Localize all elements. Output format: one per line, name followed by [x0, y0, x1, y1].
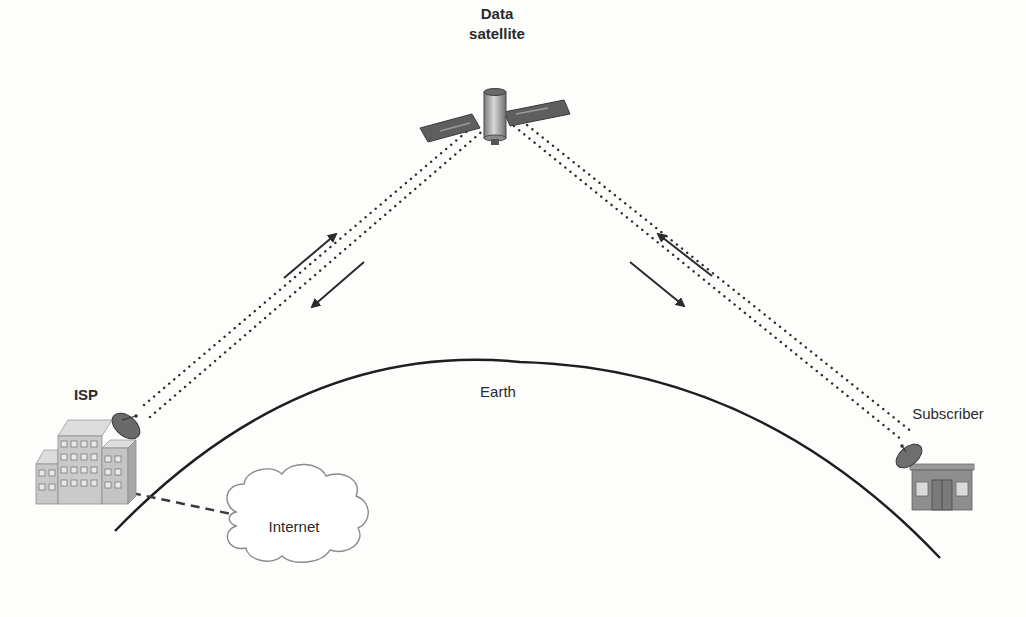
- arrow-up-icon: [658, 234, 712, 276]
- arrows-left-link: [284, 234, 364, 307]
- isp-label: ISP: [66, 385, 106, 405]
- arrow-up-icon: [284, 234, 336, 278]
- isp-building-icon: [36, 408, 145, 504]
- diagram-canvas: Data satellite Earth ISP Subscriber Inte…: [0, 0, 1026, 617]
- arrows-right-link: [630, 234, 712, 306]
- satellite-label-line2: satellite: [452, 24, 542, 44]
- downlink-beam-subscriber: [514, 121, 912, 440]
- arrow-down-icon: [630, 262, 684, 306]
- satellite-label: Data satellite: [452, 4, 542, 44]
- internet-label: Internet: [254, 517, 334, 537]
- earth-label: Earth: [468, 382, 528, 402]
- satellite-label-line1: Data: [452, 4, 542, 24]
- isp-internet-link: [132, 493, 236, 515]
- uplink-beam-isp: [144, 122, 486, 417]
- arrow-down-icon: [312, 262, 364, 307]
- satellite-dish-icon: [107, 408, 144, 444]
- subscriber-house-icon: [892, 439, 974, 510]
- diagram-svg: [0, 0, 1026, 617]
- subscriber-label: Subscriber: [900, 404, 996, 424]
- satellite-icon: [420, 89, 570, 146]
- internet-cloud-icon: [227, 464, 368, 562]
